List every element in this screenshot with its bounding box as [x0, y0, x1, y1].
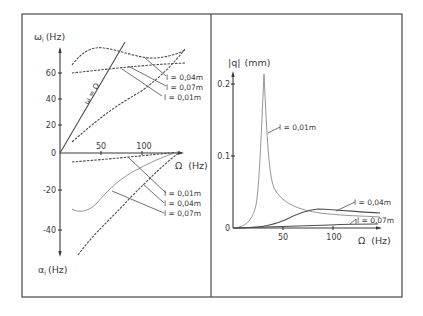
upper-legend-l007: l = 0,07m: [166, 83, 203, 92]
omega-line-label: ω = Ω: [82, 81, 101, 106]
ytick-20: 20: [46, 121, 56, 130]
left-y-arrow-down-icon: [58, 251, 61, 257]
xtick-50: 50: [96, 142, 106, 151]
right-legend-l001: l = 0,01m: [279, 123, 316, 132]
lower-legend-l001: l = 0,01m: [164, 189, 201, 198]
right-ytick-01: 0.1: [217, 152, 230, 161]
left-panel: 60 40 20 0 -20 -40 50 100 ωi(Hz) αi(Hz) …: [34, 31, 208, 276]
lower-legend-l004: l = 0,04m: [164, 199, 201, 208]
right-xtick-100: 100: [326, 233, 341, 242]
upper-legend-l001: l = 0,01m: [164, 93, 201, 102]
figure: 60 40 20 0 -20 -40 50 100 ωi(Hz) αi(Hz) …: [0, 0, 423, 316]
ytick-40: 40: [46, 95, 56, 104]
right-legend-l004: l = 0,04m: [354, 198, 391, 207]
right-x-arrow-icon: [376, 226, 382, 229]
upper-legend-l004: l = 0,04m: [166, 73, 203, 82]
right-ylabel: |q|(mm): [228, 57, 270, 68]
left-y-arrow-up-icon: [58, 47, 61, 53]
right-panel: 0.2 0.1 0 50 100 |q|(mm) Ω(Hz) l = 0,01m…: [217, 57, 394, 246]
right-ytick-02: 0.2: [217, 80, 230, 89]
right-legend-l007: l = 0,07m: [357, 216, 394, 225]
curve-upper-l004: [72, 48, 185, 65]
right-xtick-50: 50: [278, 233, 288, 242]
curve-upper-l007: [72, 63, 185, 73]
right-y-arrow-icon: [231, 71, 234, 77]
xtick-100: 100: [136, 142, 151, 151]
ytick-minus40: -40: [43, 226, 56, 235]
right-xlabel: Ω(Hz): [358, 235, 391, 246]
upper-ylabel: ωi(Hz): [34, 31, 65, 43]
right-ytick-0: 0: [225, 224, 230, 233]
lower-legend-l007: l = 0,07m: [164, 209, 201, 218]
ytick-0: 0: [51, 149, 56, 158]
ytick-minus20: -20: [43, 186, 56, 195]
lower-ylabel: αi(Hz): [38, 264, 67, 276]
ytick-60: 60: [46, 69, 56, 78]
left-xlabel: Ω(Hz): [175, 160, 208, 171]
